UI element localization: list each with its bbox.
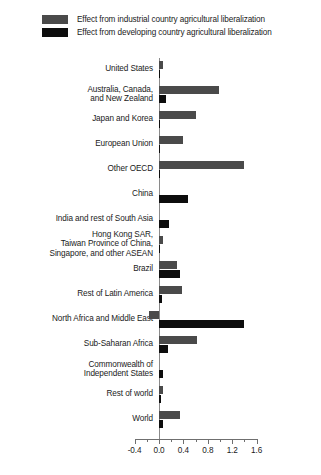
- category-label: China: [3, 189, 153, 198]
- category-label: United States: [3, 64, 153, 73]
- category-row: Rest of Latin America: [0, 286, 321, 311]
- category-row: Sub-Saharan Africa: [0, 336, 321, 361]
- x-tick-major: [159, 439, 160, 444]
- x-tick-minor: [244, 439, 245, 442]
- x-tick-label: 0.0: [146, 446, 172, 456]
- category-label: European Union: [3, 139, 153, 148]
- category-row: Brazil: [0, 261, 321, 286]
- bar-developing: [159, 295, 162, 303]
- bar-developing: [159, 120, 160, 128]
- category-label: North Africa and Middle East: [3, 314, 153, 323]
- x-tick-major: [257, 439, 258, 444]
- bar-industrial: [159, 236, 163, 244]
- bar-developing: [159, 145, 160, 153]
- category-label: Rest of world: [3, 389, 153, 398]
- bar-industrial: [159, 136, 183, 144]
- plot-area: United StatesAustralia, Canada, and New …: [0, 58, 321, 439]
- bar-industrial: [159, 386, 163, 394]
- bar-industrial: [159, 161, 244, 169]
- x-tick-label: 1.2: [219, 446, 245, 456]
- x-tick-major: [183, 439, 184, 444]
- x-tick-label: 0.4: [170, 446, 196, 456]
- category-row: China: [0, 186, 321, 211]
- category-label: Other OECD: [3, 164, 153, 173]
- x-tick-label: 0.8: [195, 446, 221, 456]
- category-label: World: [3, 414, 153, 423]
- x-tick-label: -0.4: [122, 446, 148, 456]
- category-label: Hong Kong SAR, Taiwan Province of China,…: [3, 230, 153, 258]
- x-tick-label: 1.6: [244, 446, 270, 456]
- x-tick-minor: [196, 439, 197, 442]
- x-tick-minor: [171, 439, 172, 442]
- bar-industrial: [159, 61, 163, 69]
- x-axis: -0.40.00.40.81.21.6: [0, 439, 321, 475]
- bar-developing: [159, 170, 160, 178]
- x-tick-major: [135, 439, 136, 444]
- category-row: North Africa and Middle East: [0, 311, 321, 336]
- bar-industrial: [159, 411, 180, 419]
- category-label: Rest of Latin America: [3, 289, 153, 298]
- category-row: United States: [0, 61, 321, 86]
- category-row: World: [0, 411, 321, 436]
- x-tick-minor: [220, 439, 221, 442]
- bar-developing: [159, 420, 163, 428]
- category-row: European Union: [0, 136, 321, 161]
- category-row: Japan and Korea: [0, 111, 321, 136]
- bar-industrial: [159, 86, 219, 94]
- x-tick-major: [208, 439, 209, 444]
- category-row: Hong Kong SAR, Taiwan Province of China,…: [0, 236, 321, 261]
- category-row: Other OECD: [0, 161, 321, 186]
- bar-developing: [159, 395, 161, 403]
- category-label: Sub-Saharan Africa: [3, 339, 153, 348]
- bar-industrial: [149, 311, 159, 319]
- category-label: Brazil: [3, 264, 153, 273]
- category-label: Australia, Canada, and New Zealand: [3, 85, 153, 104]
- bar-industrial: [159, 336, 197, 344]
- category-row: Commonwealth of Independent States: [0, 361, 321, 386]
- bar-developing: [159, 345, 168, 353]
- bar-developing: [159, 245, 160, 253]
- bar-industrial: [159, 111, 196, 119]
- x-tick-major: [232, 439, 233, 444]
- bar-chart: United StatesAustralia, Canada, and New …: [0, 0, 321, 475]
- x-tick-minor: [147, 439, 148, 442]
- category-label: India and rest of South Asia: [3, 214, 153, 223]
- category-row: Rest of world: [0, 386, 321, 411]
- bar-developing: [159, 70, 160, 78]
- category-row: Australia, Canada, and New Zealand: [0, 86, 321, 111]
- bar-developing: [159, 95, 166, 103]
- bar-industrial: [159, 261, 177, 269]
- bar-developing: [159, 370, 163, 378]
- category-label: Japan and Korea: [3, 114, 153, 123]
- bar-industrial: [159, 286, 182, 294]
- bar-developing: [159, 220, 169, 228]
- category-label: Commonwealth of Independent States: [3, 360, 153, 379]
- bar-developing: [159, 270, 180, 278]
- bar-developing: [159, 320, 244, 328]
- bar-developing: [159, 195, 188, 203]
